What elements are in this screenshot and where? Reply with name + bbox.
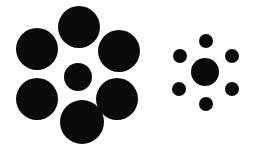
right-inducer-lower-right xyxy=(225,82,239,96)
right-target-circle xyxy=(191,58,219,86)
right-inducer-upper-right xyxy=(225,49,239,63)
left-inducer-top xyxy=(58,6,100,48)
left-inducer-upper-right xyxy=(98,30,140,72)
right-inducer-upper-left xyxy=(173,49,187,63)
illusion-canvas xyxy=(0,0,258,152)
illusion-figure xyxy=(0,0,258,152)
left-inducer-bottom xyxy=(60,100,104,144)
left-target-circle xyxy=(64,63,92,91)
right-inducer-lower-left xyxy=(172,82,186,96)
left-inducer-upper-left xyxy=(16,28,58,70)
figure-background xyxy=(0,0,258,152)
right-inducer-top xyxy=(199,34,213,48)
left-inducer-lower-left xyxy=(16,78,58,120)
right-inducer-bottom xyxy=(199,97,213,111)
